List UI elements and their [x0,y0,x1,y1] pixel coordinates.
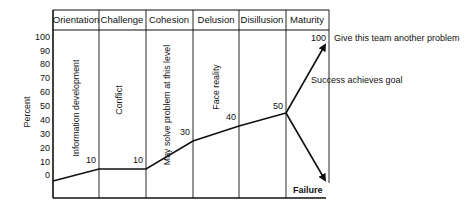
stage-header-delusion: Delusion [198,14,235,25]
failure-arrow [286,113,325,180]
stage-header-orientation: Orientation [53,14,99,25]
svg-text:90: 90 [40,46,50,56]
svg-text:30: 30 [180,127,190,137]
svg-text:10: 10 [40,157,50,167]
activity-information-development: Information development [71,59,81,156]
svg-text:10: 10 [133,155,143,165]
stage-header-cohesion: Cohesion [149,14,189,25]
stage-header-maturity: Maturity [290,14,324,25]
y-axis-ticks: 100 90 80 70 60 50 40 30 20 10 0 [35,32,50,180]
svg-text:30: 30 [40,129,50,139]
svg-text:40: 40 [40,115,50,125]
svg-text:50: 50 [40,101,50,111]
activity-conflict: Conflict [114,85,124,115]
y-axis-label: Percent [22,96,32,128]
stage-header-challenge: Challenge [101,14,144,25]
svg-text:100: 100 [311,33,326,43]
failure-label: Failure [293,185,323,195]
activity-face-reality: Face reality [211,64,221,110]
success-path-label: Success achieves goal [311,75,403,85]
svg-text:60: 60 [40,87,50,97]
svg-text:50: 50 [273,101,283,111]
svg-text:80: 80 [40,59,50,69]
svg-text:10: 10 [86,155,96,165]
activity-may-solve-problem: May solve problem at this level [162,45,172,165]
success-outcome-label: Give this team another problem [334,33,460,43]
svg-text:70: 70 [40,73,50,83]
svg-text:20: 20 [40,143,50,153]
svg-text:100: 100 [35,32,50,42]
team-development-diagram: Orientation Challenge Cohesion Delusion … [0,0,469,211]
svg-text:40: 40 [226,112,236,122]
svg-text:0: 0 [45,170,50,180]
stage-header-disillusion: Disillusion [241,14,284,25]
